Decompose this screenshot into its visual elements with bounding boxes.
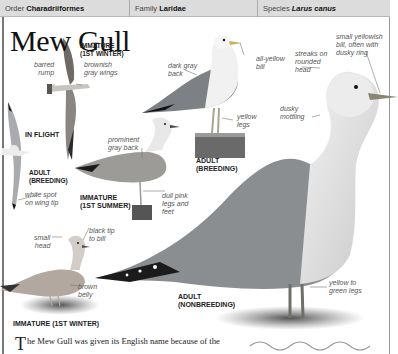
yellow-legs-annotation: yellow legs [237, 113, 256, 129]
annot-line: dusky [280, 105, 305, 113]
body-line-1: he Mew Gull was given its English name b… [27, 336, 220, 346]
annot-line: back [168, 70, 197, 78]
label-line: (BREEDING) [196, 165, 238, 173]
prominent-back-annotation: prominent gray back [108, 136, 139, 152]
label-line: (NONBREEDING) [178, 301, 235, 309]
annot-line: head [295, 66, 327, 74]
all-yellow-bill-annotation: all-yellow bill [256, 55, 285, 71]
annot-line: to bill [89, 235, 115, 243]
body-paragraph: T he Mew Gull was given its English name… [15, 336, 255, 351]
annot-line: dusky ring [336, 49, 383, 57]
annot-line: small yellowish [336, 33, 383, 41]
annot-line: gray wings [84, 69, 117, 77]
immature-1st-winter-label: IMMATURE (1ST WINTER) [13, 320, 99, 328]
small-bill-annotation: small yellowish bill, often with dusky r… [336, 33, 383, 57]
annot-line: rounded [295, 58, 327, 66]
annot-line: rump [34, 69, 54, 77]
drop-cap: T [15, 337, 26, 351]
immature-1st-summer-label: IMMATURE (1ST SUMMER) [80, 194, 131, 210]
label-line: IMMATURE [80, 42, 124, 50]
annot-line: dull pink [162, 192, 188, 200]
label-line: IMMATURE [80, 194, 131, 202]
brownish-wings-annotation: brownish gray wings [84, 61, 117, 77]
flying-adult-label: ADULT (BREEDING) [29, 169, 68, 185]
annot-line: gray back [108, 144, 139, 152]
annot-line: yellow to [329, 279, 362, 287]
annot-line: white spot [25, 191, 58, 199]
annot-line: yellow [237, 113, 256, 121]
black-tip-annotation: black tip to bill [89, 227, 115, 243]
brown-belly-annotation: brown belly [78, 283, 97, 299]
white-spot-annotation: white spot on wing tip [25, 191, 58, 207]
annot-line: green legs [329, 287, 362, 295]
annot-line: brown [78, 283, 97, 291]
annot-line: prominent [108, 136, 139, 144]
annot-line: small [34, 234, 50, 242]
annot-line: black tip [89, 227, 115, 235]
annot-line: all-yellow [256, 55, 285, 63]
in-flight-heading: IN FLIGHT [25, 131, 59, 139]
barred-rump-annotation: barred rump [34, 61, 54, 77]
dark-gray-back-annotation: dark gray back [168, 62, 197, 78]
small-head-annotation: small head [34, 234, 50, 250]
annot-line: head [34, 242, 50, 250]
annot-line: legs [237, 121, 256, 129]
adult-breeding-label: ADULT (BREEDING) [196, 157, 238, 173]
annot-line: on wing tip [25, 199, 58, 207]
annot-line: legs and [162, 200, 188, 208]
flying-immature-label: IMMATURE (1ST WINTER) [80, 42, 124, 58]
adult-nonbreeding-label: ADULT (NONBREEDING) [178, 293, 235, 309]
annot-line: dark gray [168, 62, 197, 70]
yellow-green-legs-annotation: yellow to green legs [329, 279, 362, 295]
dull-pink-legs-annotation: dull pink legs and feet [162, 192, 188, 216]
annot-line: belly [78, 291, 97, 299]
label-line: ADULT [178, 293, 235, 301]
label-line: ADULT [29, 169, 68, 177]
label-line: ADULT [196, 157, 238, 165]
annot-line: mottling [280, 113, 305, 121]
label-line: (BREEDING) [29, 177, 68, 185]
annot-line: bill, often with [336, 41, 383, 49]
streaks-head-annotation: streaks on rounded head [295, 50, 327, 74]
annot-line: feet [162, 208, 188, 216]
annot-line: bill [256, 63, 285, 71]
annot-line: barred [34, 61, 54, 69]
label-line: (1ST SUMMER) [80, 202, 131, 210]
annot-line: brownish [84, 61, 117, 69]
wave-decoration [250, 342, 370, 350]
dusky-mottling-annotation: dusky mottling [280, 105, 305, 121]
label-line: (1ST WINTER) [80, 50, 124, 58]
annot-line: streaks on [295, 50, 327, 58]
